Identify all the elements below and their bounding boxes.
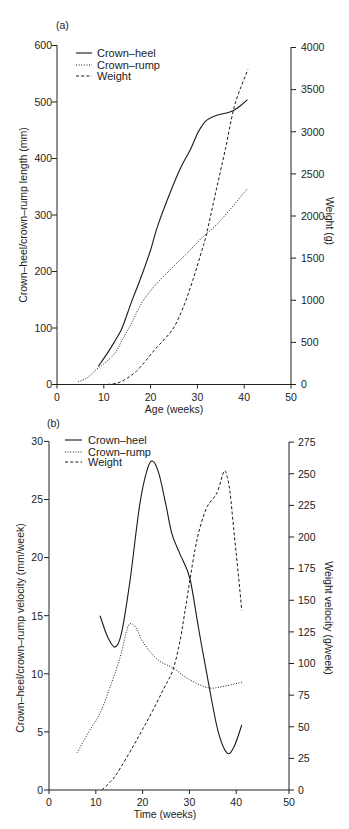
legend-label-weight: Weight [97, 70, 131, 82]
axes-a: 0102030405001002003004005006000500100015… [34, 39, 324, 403]
growth-figure: (a) Crown–heel Crown–rump Weight Age (we… [0, 0, 349, 829]
y-tick-label-left: 500 [34, 96, 52, 108]
y-tick-label-left: 10 [31, 668, 43, 680]
y-tick-label-right: 0 [301, 378, 307, 390]
y-tick-label-right: 1500 [301, 252, 325, 264]
x-tick-label: 40 [230, 796, 242, 808]
y-tick-label-left: 300 [34, 209, 52, 221]
panel-a-length-weight-chart: (a) Crown–heel Crown–rump Weight Age (we… [17, 19, 336, 415]
x-tick-label: 10 [90, 796, 102, 808]
legend-b: Crown–heel Crown–rump Weight [65, 434, 151, 468]
y-tick-label-right: 50 [298, 721, 310, 733]
y-axis-title-left-a: Crown–heel/crown–rump length (mm) [17, 127, 29, 303]
x-tick-label: 10 [98, 391, 110, 403]
y-tick-label-right: 2000 [301, 210, 325, 222]
x-tick-label: 30 [192, 391, 204, 403]
x-tick-label: 30 [184, 796, 196, 808]
y-tick-label-right: 125 [298, 626, 316, 638]
y-tick-label-left: 20 [31, 551, 43, 563]
y-tick-label-left: 0 [37, 784, 43, 796]
y-tick-label-left: 15 [31, 610, 43, 622]
y-tick-label-left: 600 [34, 39, 52, 51]
y-tick-label-right: 500 [301, 336, 319, 348]
y-tick-label-right: 1000 [301, 294, 325, 306]
y-axis-title-right-b: Weight velocity (g/week) [323, 561, 335, 675]
y-tick-label-left: 5 [37, 726, 43, 738]
y-tick-label-right: 250 [298, 468, 316, 480]
y-tick-label-right: 225 [298, 499, 316, 511]
series-crown-rump-dotted [78, 188, 247, 381]
x-tick-label: 0 [54, 391, 60, 403]
y-tick-label-right: 75 [298, 689, 310, 701]
y-tick-label-right: 3500 [301, 83, 325, 95]
y-tick-label-right: 2500 [301, 168, 325, 180]
x-tick-label: 0 [46, 796, 52, 808]
panel-b-velocity-chart: (b) Crown–heel Crown–rump Weight Time (w… [14, 417, 335, 820]
x-axis-title-b: Time (weeks) [134, 808, 197, 820]
y-axis-title-right-a: Weight (g) [324, 197, 336, 245]
y-tick-label-right: 3000 [301, 126, 325, 138]
series-crown-heel-solid [98, 100, 247, 367]
y-tick-label-left: 200 [34, 265, 52, 277]
y-axis-title-left-b: Crown–heel/crown–rump velocity (mm/week) [14, 523, 26, 732]
y-tick-label-right: 25 [298, 752, 310, 764]
x-tick-label: 50 [285, 391, 297, 403]
axes-b: 0102030405005101520253002550751001251501… [31, 435, 315, 808]
series-weight-dashed [108, 69, 248, 384]
y-tick-label-left: 25 [31, 493, 43, 505]
x-tick-label: 20 [137, 796, 149, 808]
x-tick-label: 40 [238, 391, 250, 403]
y-tick-label-right: 200 [298, 531, 316, 543]
y-tick-label-right: 175 [298, 562, 316, 574]
x-tick-label: 50 [283, 796, 295, 808]
y-tick-label-right: 4000 [301, 41, 325, 53]
plot-area-b [77, 461, 243, 790]
y-tick-label-left: 30 [31, 435, 43, 447]
legend-label-crown-heel: Crown–heel [88, 434, 147, 446]
legend-a: Crown–heel Crown–rump Weight [76, 47, 160, 82]
y-tick-label-right: 150 [298, 594, 316, 606]
x-axis-title-a: Age (weeks) [145, 403, 203, 415]
x-tick-label: 20 [145, 391, 157, 403]
panel-label-b: (b) [47, 417, 60, 429]
legend-label-crown-heel: Crown–heel [97, 47, 156, 59]
plot-area-a [78, 69, 248, 384]
y-tick-label-left: 0 [46, 378, 52, 390]
legend-label-weight: Weight [88, 456, 122, 468]
y-tick-label-right: 100 [298, 657, 316, 669]
y-tick-label-left: 400 [34, 152, 52, 164]
y-tick-label-right: 275 [298, 436, 316, 448]
y-tick-label-right: 0 [298, 784, 304, 796]
panel-label-a: (a) [56, 19, 69, 31]
series-crown-heel-solid [100, 461, 242, 754]
y-tick-label-left: 100 [34, 322, 52, 334]
